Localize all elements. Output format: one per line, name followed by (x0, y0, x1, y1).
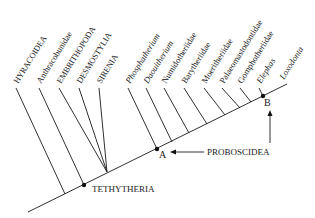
node-label-tethytheria: TETHYTHERIA (92, 184, 155, 194)
cladogram: HYRACOIDEA Anthracobunidae EMBRITHOPODA … (0, 0, 315, 218)
node-label-a: A (159, 149, 167, 160)
clade-label-proboscidea: PROBOSCIDEA (207, 147, 270, 157)
branch-phosphatherium (128, 88, 157, 149)
branch-numidotheriidae (164, 88, 189, 133)
node-tethytheria-dot (82, 183, 86, 187)
arrow-to-a-head (170, 150, 176, 155)
branch-moeritheriidae (204, 88, 225, 115)
node-label-b: B (264, 97, 271, 108)
branch-barytheriidae (184, 88, 207, 124)
arrow-to-b-head (268, 110, 273, 116)
branch-palaeomastodontidae (222, 88, 240, 108)
branch-hyracoidea (16, 88, 65, 194)
branch-gomphotheriidae (240, 88, 251, 102)
taxon-label-loxodonta: Loxodonta (277, 45, 305, 82)
branch-anthracobunidae (39, 88, 84, 185)
